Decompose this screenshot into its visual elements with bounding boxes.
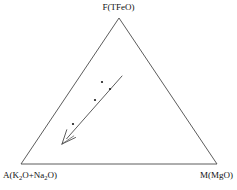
data-point xyxy=(72,123,74,125)
apex-label-f: F(TFeO) xyxy=(0,2,237,12)
apex-label-text: F(TFeO) xyxy=(103,2,135,12)
bottom-left-label-mid: O+Na xyxy=(22,170,44,180)
trend-arrow-shaft xyxy=(67,76,122,139)
data-point xyxy=(109,88,111,90)
triangle-frame xyxy=(21,18,217,164)
bottom-left-label-sub1: 2 xyxy=(19,174,22,181)
ternary-triangle xyxy=(21,18,217,164)
bottom-left-label-a: A(K2O+Na2O) xyxy=(3,170,57,181)
bottom-right-label-text: M(MgO) xyxy=(200,170,233,180)
bottom-right-label-m: M(MgO) xyxy=(200,170,233,180)
bottom-left-label-sub2: 2 xyxy=(44,174,47,181)
data-point xyxy=(101,81,103,83)
bottom-left-label-suffix: O) xyxy=(48,170,58,180)
ternary-diagram: F(TFeO) A(K2O+Na2O) M(MgO) xyxy=(0,0,237,190)
ternary-plot-canvas xyxy=(0,0,237,190)
data-points xyxy=(72,81,111,125)
data-point xyxy=(94,99,96,101)
bottom-left-label-prefix: A(K xyxy=(3,170,19,180)
trend-arrow xyxy=(62,76,122,144)
